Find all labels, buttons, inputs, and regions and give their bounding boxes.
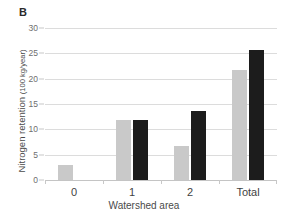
y-tick-label-5: 5 bbox=[33, 150, 38, 160]
x-tick-label-Total: Total bbox=[236, 186, 259, 198]
y-tick-mark-30 bbox=[39, 28, 44, 29]
y-axis-title: Nitrogen retention (100 kg/year) bbox=[11, 31, 25, 191]
chart-figure: B Nitrogen retention (100 kg/year) 05101… bbox=[0, 0, 288, 220]
x-tick-mark-end bbox=[276, 180, 277, 184]
y-axis-title-text: Nitrogen retention bbox=[16, 97, 27, 173]
x-tick-mark-0 bbox=[45, 180, 46, 184]
y-tick-label-15: 15 bbox=[29, 99, 38, 109]
y-tick-mark-10 bbox=[39, 129, 44, 130]
x-tick-mark-Total bbox=[219, 180, 220, 184]
x-tick-mark-2 bbox=[161, 180, 162, 184]
x-tick-label-2: 2 bbox=[187, 186, 193, 198]
y-tick-mark-15 bbox=[39, 104, 44, 105]
gridline-25 bbox=[45, 53, 277, 54]
bar-2-series-light bbox=[174, 146, 189, 180]
y-tick-label-0: 0 bbox=[33, 175, 38, 185]
x-tick-label-0: 0 bbox=[71, 186, 77, 198]
y-tick-mark-0 bbox=[39, 180, 44, 181]
x-tick-label-1: 1 bbox=[129, 186, 135, 198]
y-tick-label-25: 25 bbox=[29, 48, 38, 58]
plot-area: 051015202530012Total bbox=[45, 28, 277, 180]
y-tick-mark-20 bbox=[39, 78, 44, 79]
bar-0-series-light bbox=[58, 165, 73, 180]
x-axis-title: Watershed area bbox=[0, 200, 288, 211]
x-tick-mark-1 bbox=[103, 180, 104, 184]
y-tick-mark-25 bbox=[39, 53, 44, 54]
bar-1-series-dark bbox=[133, 120, 148, 180]
y-tick-label-10: 10 bbox=[29, 124, 38, 134]
gridline-30 bbox=[45, 28, 277, 29]
bar-Total-series-dark bbox=[249, 50, 264, 180]
y-axis-unit-text: (100 kg/year) bbox=[18, 50, 27, 95]
y-tick-label-20: 20 bbox=[29, 74, 38, 84]
bar-2-series-dark bbox=[191, 111, 206, 180]
bar-1-series-light bbox=[116, 120, 131, 180]
y-tick-mark-5 bbox=[39, 154, 44, 155]
panel-letter: B bbox=[19, 6, 27, 18]
y-tick-label-30: 30 bbox=[29, 23, 38, 33]
bar-Total-series-light bbox=[232, 70, 247, 180]
